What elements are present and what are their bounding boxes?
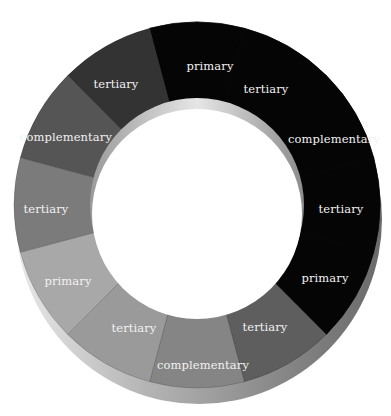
wheel-center-hole — [92, 109, 302, 319]
color-wheel — [0, 0, 391, 416]
